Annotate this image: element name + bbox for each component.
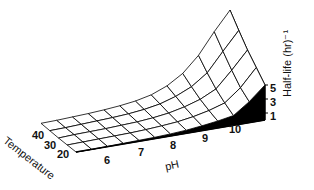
y-tick-label: 20	[57, 149, 69, 160]
x-tick-label: 6	[104, 155, 110, 166]
z-tick-label: 3	[270, 97, 276, 108]
z-tick-label: 5	[270, 83, 276, 94]
z-tick-label: 1	[270, 111, 276, 122]
x-tick-label: 9	[202, 133, 208, 144]
x-tick-label: 10	[229, 124, 241, 135]
surface-plot	[0, 0, 314, 190]
x-tick-label: 7	[138, 147, 144, 158]
y-tick-label: 30	[44, 140, 56, 151]
x-tick-label: 8	[170, 140, 176, 151]
z-axis-label: Half-life (hr)⁻¹	[282, 30, 293, 97]
y-tick-label: 40	[32, 130, 44, 141]
